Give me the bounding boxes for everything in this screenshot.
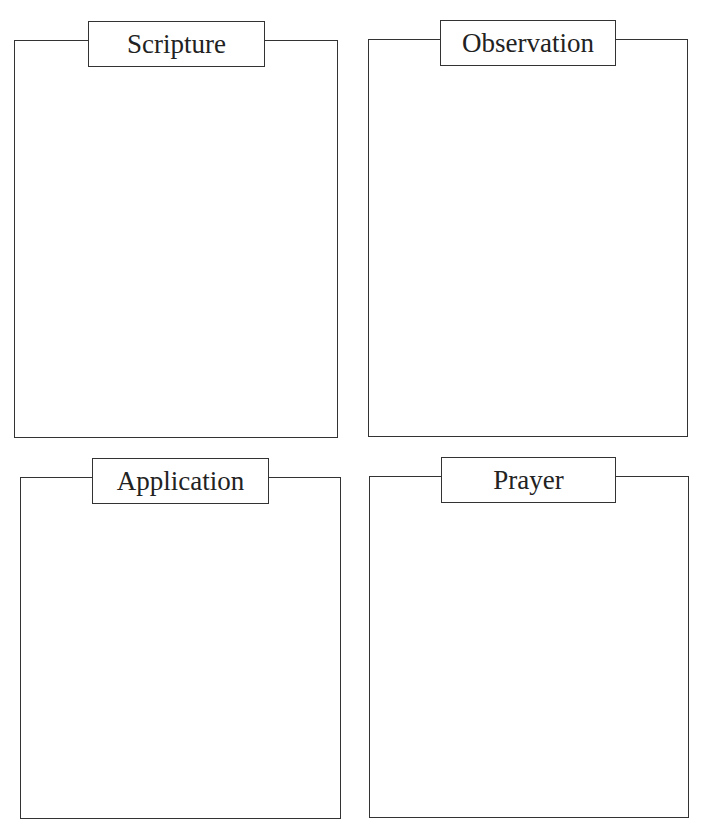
prayer-box[interactable]: [369, 476, 689, 818]
application-label: Application: [92, 458, 269, 504]
observation-box[interactable]: [368, 39, 688, 437]
scripture-box[interactable]: [14, 40, 338, 438]
prayer-label: Prayer: [441, 457, 616, 503]
observation-label: Observation: [440, 20, 616, 66]
application-box[interactable]: [20, 477, 341, 819]
scripture-label: Scripture: [88, 21, 265, 67]
